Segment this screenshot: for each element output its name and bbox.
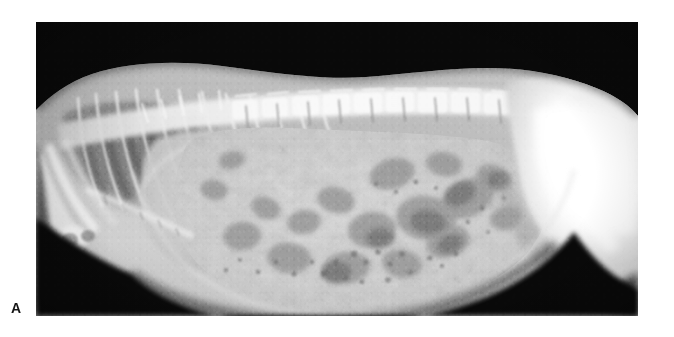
figure-root: A xyxy=(0,0,674,337)
panel-label-a: A xyxy=(11,298,31,318)
radiograph-canvas xyxy=(36,22,638,316)
radiograph-image xyxy=(36,22,638,316)
